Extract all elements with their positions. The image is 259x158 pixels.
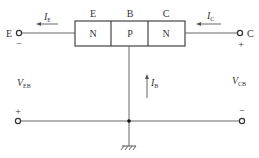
bottom-left-polarity: +: [15, 106, 21, 117]
junction-dot: [127, 119, 131, 123]
emitter-terminal-label: E: [6, 28, 12, 39]
region-type-n-emitter: N: [89, 28, 96, 39]
ic-label: IC: [206, 10, 214, 22]
collector-terminal: [237, 30, 242, 35]
transistor-diagram: E B C N P N E − C + IE IC IB VEB VCB + −: [0, 0, 259, 158]
region-header-base: B: [127, 8, 134, 19]
region-header-emitter: E: [90, 8, 96, 19]
ie-label: IE: [43, 11, 51, 23]
bottom-left-terminal: [15, 118, 20, 123]
bottom-right-polarity: −: [239, 105, 245, 116]
emitter-polarity: −: [16, 38, 22, 49]
ground-icon: [121, 146, 136, 150]
bottom-right-terminal: [239, 118, 244, 123]
region-type-n-collector: N: [162, 28, 169, 39]
vcb-label: VCB: [232, 75, 246, 87]
region-header-collector: C: [163, 8, 170, 19]
collector-terminal-label: C: [247, 28, 254, 39]
region-type-p-base: P: [127, 28, 133, 39]
veb-label: VEB: [17, 77, 31, 89]
ib-label: IB: [150, 77, 158, 89]
ic-arrow-icon: [196, 22, 221, 26]
emitter-terminal: [16, 30, 21, 35]
collector-polarity: +: [238, 39, 244, 50]
ib-arrow-icon: [145, 74, 149, 98]
